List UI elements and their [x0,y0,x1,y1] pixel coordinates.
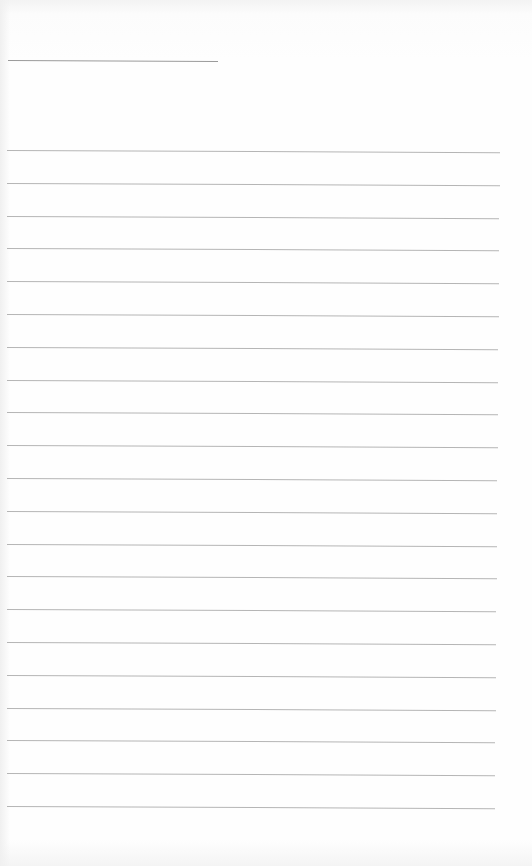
ruled-line [7,347,498,350]
ruled-line [7,248,499,251]
ruled-line [7,183,500,186]
ruled-line [7,708,496,711]
ruled-line [7,773,495,776]
ruled-line [7,445,498,448]
ruled-line [7,281,499,284]
ruled-line [7,478,497,481]
ruled-line [7,642,496,645]
ruled-line [7,511,497,514]
ruled-line [7,806,495,809]
notepad-page [0,0,532,866]
ruled-line [7,576,497,579]
ruled-line [7,740,495,743]
ruled-line [7,216,499,219]
ruled-line [7,412,498,415]
ruled-line [7,609,496,612]
ruled-line [7,675,496,678]
ruled-lines [0,0,532,866]
ruled-line [7,544,497,547]
ruled-line [7,150,500,153]
ruled-line [7,314,499,317]
ruled-line [7,380,498,383]
